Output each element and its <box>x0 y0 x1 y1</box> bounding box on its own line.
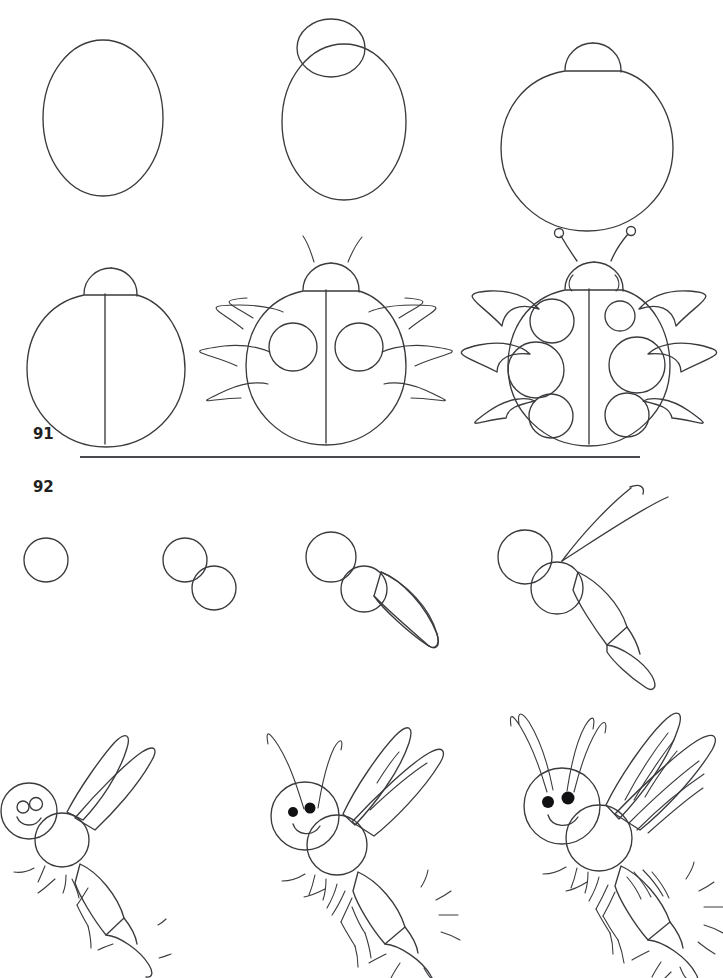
section-number-92: 92 <box>33 478 53 496</box>
ladybug-step-6 <box>461 227 716 447</box>
dragonfly-step-7 <box>510 713 723 978</box>
ladybug-step-4 <box>27 268 185 447</box>
ladybug-step-1 <box>43 40 163 196</box>
dragonfly-step-6 <box>267 728 460 978</box>
dragonfly-step-3 <box>306 532 438 648</box>
dragonfly-step-5 <box>1 736 171 978</box>
dragonfly-step-4 <box>498 485 668 689</box>
section-number-91: 91 <box>33 425 53 443</box>
tutorial-illustration-canvas <box>0 0 723 978</box>
dragonfly-step-1 <box>24 538 68 582</box>
ladybug-step-3 <box>501 43 673 231</box>
drawing-tutorial-page: 91 92 <box>0 0 723 978</box>
ladybug-step-2 <box>282 19 406 200</box>
ladybug-step-5 <box>200 236 453 445</box>
dragonfly-step-2 <box>163 538 236 610</box>
